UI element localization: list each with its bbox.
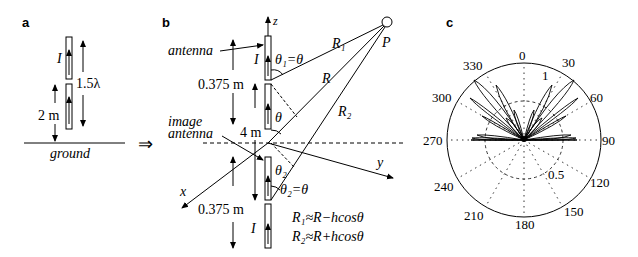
panel-c-label: c bbox=[446, 15, 453, 30]
pattern-center bbox=[521, 136, 527, 142]
R2-label: R₂ bbox=[337, 104, 352, 119]
radial-tick-1: 1 bbox=[542, 68, 549, 83]
angle-tick-60: 60 bbox=[590, 90, 603, 105]
angle-tick-210: 210 bbox=[464, 208, 484, 223]
ground-label: ground bbox=[50, 146, 91, 161]
height-label: 2 m bbox=[38, 108, 60, 123]
point-P-label: P bbox=[381, 35, 391, 50]
current-label: I bbox=[56, 51, 63, 66]
dist-mid-label: 4 m bbox=[240, 125, 262, 140]
angle-tick-180: 180 bbox=[515, 217, 535, 232]
current-top-label: I bbox=[253, 52, 260, 67]
angle-tick-90: 90 bbox=[602, 133, 615, 148]
implies-arrow-icon: ⇒ bbox=[138, 134, 153, 154]
panel-b: b z I antenna 0.375 m 4 m image antenna … bbox=[162, 14, 405, 248]
equation-R2: R₂≈R+hcosθ bbox=[291, 229, 364, 244]
panel-b-label: b bbox=[162, 15, 170, 30]
antenna-pointer-arrow bbox=[220, 45, 263, 51]
x-axis-label: x bbox=[179, 184, 187, 199]
theta2-label: θ₂ bbox=[275, 163, 287, 178]
theta2-eq-label: θ₂=θ bbox=[280, 182, 308, 197]
angle-tick-270: 270 bbox=[423, 133, 443, 148]
image-antenna-label-line2: antenna bbox=[168, 126, 213, 141]
y-axis-label: y bbox=[375, 155, 384, 170]
point-P-marker bbox=[382, 17, 392, 27]
dist-top-label: 0.375 m bbox=[198, 77, 244, 92]
z-axis-label: z bbox=[272, 14, 278, 28]
y-axis bbox=[268, 143, 393, 178]
theta1-arc bbox=[271, 70, 283, 75]
panel-a: a I 1.5λ 2 m ground bbox=[22, 15, 125, 161]
panel-c: c bbox=[423, 15, 615, 232]
angle-tick-150: 150 bbox=[564, 204, 584, 219]
R1-label: R₁ bbox=[331, 36, 345, 51]
figure-canvas: a I 1.5λ 2 m ground ⇒ b z I antenn bbox=[0, 0, 638, 257]
R-label: R bbox=[321, 71, 331, 86]
dist-bottom-label: 0.375 m bbox=[198, 202, 244, 217]
equation-R1: R₁≈R−hcosθ bbox=[291, 210, 364, 225]
theta-label: θ bbox=[275, 110, 282, 125]
antenna-label: antenna bbox=[168, 43, 213, 58]
angle-tick-330: 330 bbox=[463, 58, 483, 73]
angle-tick-240: 240 bbox=[434, 179, 454, 194]
angle-tick-0: 0 bbox=[519, 48, 526, 63]
panel-a-label: a bbox=[22, 15, 30, 30]
angle-tick-30: 30 bbox=[562, 55, 575, 70]
angle-tick-120: 120 bbox=[590, 175, 610, 190]
radial-tick-0.5: 0.5 bbox=[548, 167, 564, 182]
angle-tick-300: 300 bbox=[432, 90, 452, 105]
theta1-label: θ₁=θ bbox=[275, 52, 303, 67]
length-label: 1.5λ bbox=[76, 76, 101, 91]
current-bottom-label: I bbox=[250, 221, 257, 236]
